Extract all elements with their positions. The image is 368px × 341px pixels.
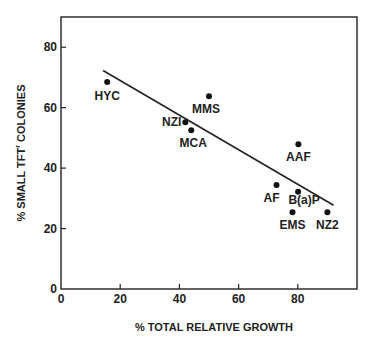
y-axis-ticks: 020406080 xyxy=(44,40,66,296)
point-label: NZI xyxy=(162,115,181,129)
point-label: AAF xyxy=(286,150,311,164)
regression-line xyxy=(103,70,334,205)
data-point xyxy=(273,182,279,188)
y-tick-label: 80 xyxy=(44,40,58,54)
x-tick-label: 80 xyxy=(291,292,305,306)
data-point xyxy=(188,127,194,133)
point-label: MCA xyxy=(180,136,208,150)
point-label: AF xyxy=(263,191,279,205)
y-tick-label: 40 xyxy=(44,161,58,175)
x-axis-title: % TOTAL RELATIVE GROWTH xyxy=(135,321,293,333)
data-point xyxy=(206,93,212,99)
y-axis-title: % SMALL TFTr COLONIES xyxy=(14,85,27,222)
x-tick-label: 0 xyxy=(58,292,65,306)
y-axis-title-main: % SMALL TFT xyxy=(15,147,27,221)
plot-frame xyxy=(61,17,357,289)
point-label: EMS xyxy=(279,218,305,232)
x-tick-label: 40 xyxy=(173,292,187,306)
scatter-chart: 020406080 020406080 HYCMMSNZIMCAAAFAFB(a… xyxy=(0,0,368,341)
y-tick-label: 20 xyxy=(44,222,58,236)
point-label: HYC xyxy=(95,89,121,103)
point-label: MMS xyxy=(192,102,220,116)
x-tick-label: 20 xyxy=(114,292,128,306)
point-label: NZ2 xyxy=(316,218,339,232)
data-point xyxy=(289,209,295,215)
data-point xyxy=(324,209,330,215)
x-axis-ticks: 020406080 xyxy=(58,284,305,306)
data-point xyxy=(104,79,110,85)
x-tick-label: 60 xyxy=(232,292,246,306)
y-axis-title-suffix: COLONIES xyxy=(15,85,27,146)
point-label: B(a)P xyxy=(288,193,319,207)
y-tick-label: 60 xyxy=(44,101,58,115)
data-points: HYCMMSNZIMCAAAFAFB(a)PEMSNZ2 xyxy=(95,79,340,232)
data-point xyxy=(295,141,301,147)
y-tick-label: 0 xyxy=(50,282,57,296)
data-point xyxy=(182,119,188,125)
